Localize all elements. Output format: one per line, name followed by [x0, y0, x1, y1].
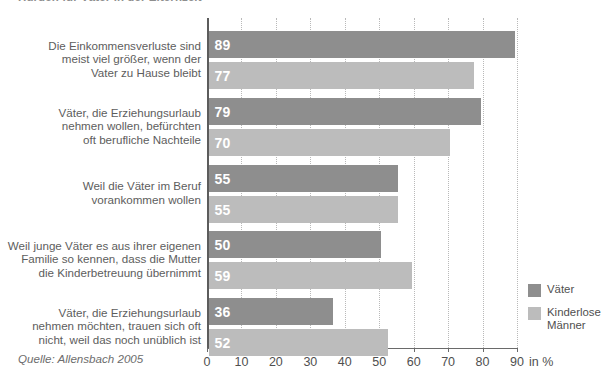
category-label: Die Einkommensverluste sindmeist viel gr… [5, 39, 201, 80]
category-label: Väter, die Erziehungsurlaubnehmen wollen… [5, 106, 201, 147]
legend-label: Väter [547, 283, 574, 296]
bar: 55 [209, 165, 398, 192]
bar: 52 [209, 329, 388, 356]
x-tick-label: 80 [476, 355, 490, 369]
category-label: Weil junge Väter es aus ihrer eigenenFam… [5, 239, 201, 280]
chart-legend: Väter Kinderlose Männer [528, 283, 601, 341]
bar: 59 [209, 262, 412, 289]
bar-value-label: 89 [215, 37, 231, 53]
x-tick-label: 10 [234, 355, 248, 369]
x-tick-label: 60 [407, 355, 421, 369]
category-label: Weil die Väter im Berufvorankommen wolle… [5, 179, 201, 206]
bar-value-label: 70 [215, 135, 231, 151]
legend-swatch-icon [528, 284, 541, 297]
category-label-line: nehmen wollen, befürchten [5, 119, 201, 133]
legend-item-kinderlose-maenner[interactable]: Kinderlose Männer [528, 306, 601, 332]
tick-mark [483, 348, 484, 352]
legend-label: Kinderlose Männer [547, 306, 601, 332]
bar: 89 [209, 31, 516, 58]
category-label-line: Weil die Väter im Beruf [5, 179, 201, 193]
tick-mark [517, 348, 518, 352]
category-label-line: Weil junge Väter es aus ihrer eigenen [5, 239, 201, 253]
x-tick-label: 40 [338, 355, 352, 369]
category-label-line: meist viel größer, wenn der [5, 52, 201, 66]
bar-value-label: 36 [215, 304, 231, 320]
gridline [517, 18, 519, 348]
x-tick-label: 50 [372, 355, 386, 369]
category-label-line: Familie so kennen, dass die Mutter [5, 252, 201, 266]
bar-value-label: 55 [215, 171, 231, 187]
bar: 70 [209, 129, 450, 156]
tick-mark [448, 348, 449, 352]
tick-mark [414, 348, 415, 352]
source-note: Quelle: Allensbach 2005 [18, 352, 143, 365]
x-tick-label: 70 [441, 355, 455, 369]
gridline [483, 18, 485, 348]
bar-value-label: 79 [215, 104, 231, 120]
bar-value-label: 50 [215, 237, 231, 253]
bar: 36 [209, 298, 333, 325]
bar-value-label: 55 [215, 202, 231, 218]
legend-swatch-icon [528, 307, 541, 320]
bar-value-label: 52 [215, 335, 231, 351]
bar: 50 [209, 231, 381, 258]
category-label-line: oft berufliche Nachteile [5, 133, 201, 147]
bar-value-label: 77 [215, 68, 231, 84]
plot-area: 0102030405060708090 in % 897779705555505… [207, 18, 517, 348]
category-label-line: die Kinderbetreuung übernimmt [5, 266, 201, 280]
category-label-line: vorankommen wollen [5, 193, 201, 207]
legend-item-vaeter[interactable]: Väter [528, 283, 601, 297]
category-label-line: nicht, weil das noch unüblich ist [5, 333, 201, 347]
category-label-line: Die Einkommensverluste sind [5, 39, 201, 53]
category-label-line: Vater zu Hause bleibt [5, 66, 201, 80]
bar: 77 [209, 62, 474, 89]
category-label-line: Väter, die Erziehungsurlaub [5, 106, 201, 120]
chart-canvas: Hürden für Väter in der Elternzeit 01020… [0, 0, 610, 382]
x-axis-unit-label: in % [529, 355, 553, 369]
category-label-line: Väter, die Erziehungsurlaub [5, 306, 201, 320]
bar: 79 [209, 98, 481, 125]
chart-title: Hürden für Väter in der Elternzeit [18, 0, 202, 3]
x-tick-label: 0 [204, 355, 211, 369]
bar-value-label: 59 [215, 268, 231, 284]
x-tick-label: 90 [510, 355, 524, 369]
category-label-line: nehmen möchten, trauen sich oft [5, 319, 201, 333]
x-tick-label: 30 [303, 355, 317, 369]
x-tick-label: 20 [269, 355, 283, 369]
category-label: Väter, die Erziehungsurlaubnehmen möchte… [5, 306, 201, 347]
bar: 55 [209, 196, 398, 223]
